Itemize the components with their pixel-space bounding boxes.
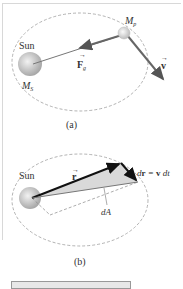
figure-b: Sun r → dr = v dt dA (b) — [12, 154, 170, 268]
velocity-vector — [127, 35, 163, 79]
sun-b — [19, 187, 41, 209]
dr-label: dr = v dt — [137, 168, 170, 178]
svg-text:→: → — [72, 166, 79, 174]
planet-mass-label: Mp — [124, 15, 136, 27]
area-label: dA — [101, 207, 112, 217]
sun-a — [18, 52, 42, 76]
svg-text:→: → — [79, 51, 86, 59]
bottom-bar — [11, 281, 131, 289]
sun-label-a: Sun — [19, 40, 35, 51]
planet — [118, 27, 130, 39]
svg-text:→: → — [161, 54, 168, 62]
sun-label-b: Sun — [19, 170, 35, 181]
sun-mass-label: MS — [21, 80, 33, 92]
force-label: Fg — [77, 59, 86, 71]
caption-a: (a) — [66, 119, 77, 131]
figure-a: Sun MS Mp Fg → v → (a) — [12, 13, 168, 131]
caption-b: (b) — [74, 256, 86, 268]
